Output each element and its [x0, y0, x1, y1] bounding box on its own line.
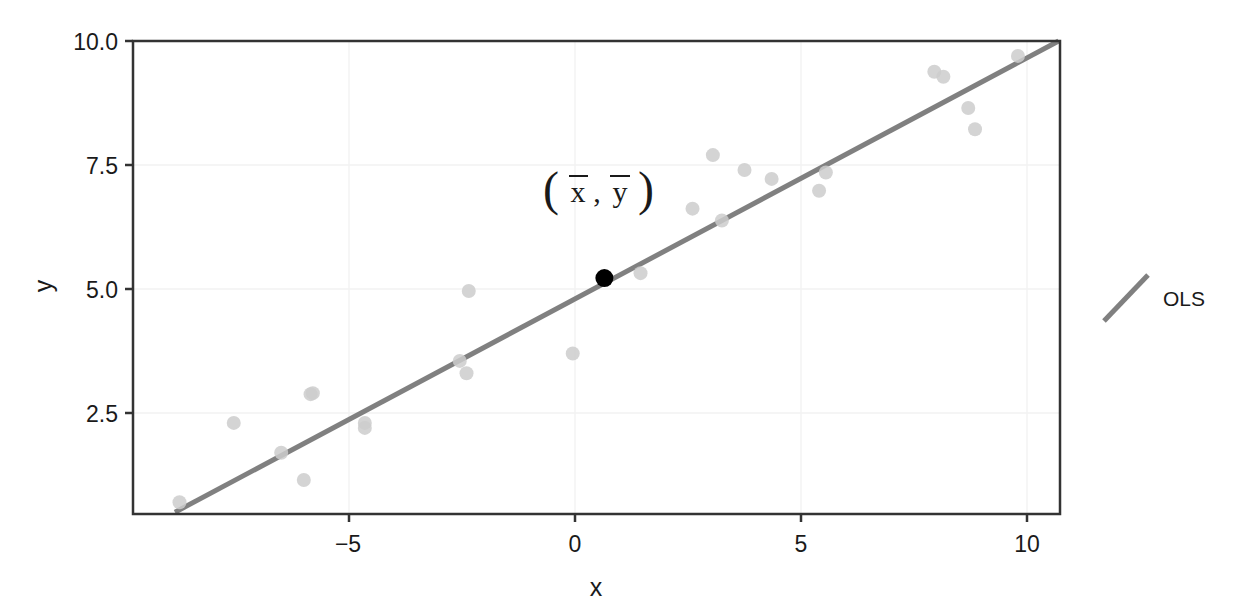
data-point — [274, 446, 288, 460]
annotation-open-paren: ( — [543, 162, 559, 216]
data-point — [686, 202, 700, 216]
x-tick-label-5: 5 — [795, 531, 808, 557]
annotation-y-bar: y — [613, 175, 628, 208]
chart-figure: 10.0 7.5 5.0 2.5 −5 0 5 10 x y ( x , y )… — [0, 0, 1248, 612]
mean-point — [595, 269, 613, 287]
data-point — [738, 163, 752, 177]
annotation-comma: , — [593, 175, 601, 208]
data-point — [173, 495, 187, 509]
x-tick-label-10: 10 — [1014, 531, 1040, 557]
data-point — [706, 148, 720, 162]
data-point — [227, 416, 241, 430]
scatter-plot-svg: 10.0 7.5 5.0 2.5 −5 0 5 10 x y ( x , y )… — [0, 0, 1248, 612]
y-tick-label-7.5: 7.5 — [86, 153, 118, 179]
data-point — [462, 284, 476, 298]
data-point — [566, 346, 580, 360]
data-point — [936, 70, 950, 84]
data-point — [297, 473, 311, 487]
data-point — [460, 366, 474, 380]
y-axis-title: y — [29, 279, 57, 292]
data-point — [358, 421, 372, 435]
data-point — [812, 184, 826, 198]
legend: OLS — [1104, 275, 1205, 321]
data-point — [1011, 49, 1025, 63]
data-point — [453, 354, 467, 368]
y-tick-label-10: 10.0 — [73, 29, 118, 55]
annotation-close-paren: ) — [638, 162, 654, 216]
mean-point-marker — [595, 269, 613, 287]
annotation-x-bar: x — [571, 175, 586, 208]
data-point — [819, 165, 833, 179]
x-tick-label-0: 0 — [569, 531, 582, 557]
data-point — [306, 386, 320, 400]
legend-ols-label: OLS — [1163, 287, 1205, 310]
data-point — [961, 101, 975, 115]
data-point — [765, 172, 779, 186]
data-point — [968, 122, 982, 136]
x-tick-label-minus5: −5 — [335, 531, 361, 557]
legend-ols-line-swatch — [1104, 275, 1148, 321]
x-axis-title: x — [590, 573, 603, 601]
data-point — [634, 266, 648, 280]
y-tick-label-5: 5.0 — [86, 277, 118, 303]
data-point — [715, 214, 729, 228]
y-tick-label-2.5: 2.5 — [86, 401, 118, 427]
